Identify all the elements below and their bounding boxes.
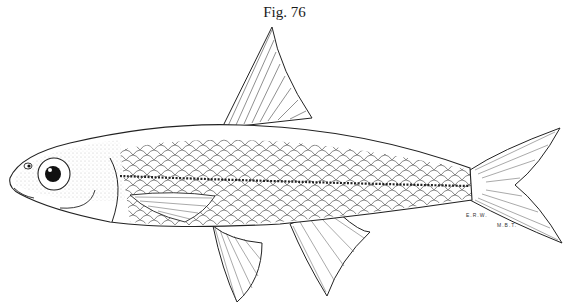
artist-initials-1: E.R.W.: [466, 212, 488, 218]
pelvic-fin: [213, 226, 262, 302]
pupil: [45, 166, 61, 182]
dorsal-fin: [222, 27, 312, 128]
anal-fin: [290, 214, 370, 296]
fish-illustration: [0, 0, 569, 308]
fish-body: [10, 125, 472, 227]
artist-initials-2: M.B.T.: [497, 222, 517, 228]
